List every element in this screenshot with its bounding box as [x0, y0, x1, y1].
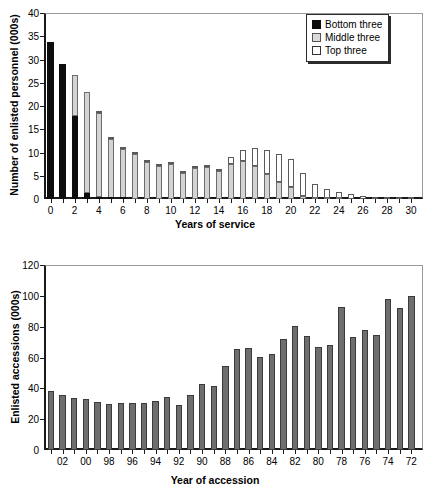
bar-fill — [257, 357, 263, 450]
bar — [84, 13, 90, 199]
legend-swatch-bottom-three-icon — [312, 20, 321, 29]
bar-segment-middle-three — [336, 197, 342, 199]
x-tick-label: 28 — [381, 205, 392, 216]
bar-segment-top-three — [348, 194, 354, 199]
y-tick-label: 25 — [28, 77, 39, 88]
bar-segment-top-three — [408, 197, 414, 199]
x-tick-mark — [121, 450, 122, 454]
bar — [211, 265, 217, 450]
bar-fill — [315, 347, 321, 450]
x-tick-mark — [51, 450, 52, 454]
bar-segment-middle-three — [312, 197, 318, 199]
y-tick-label: 30 — [28, 54, 39, 65]
bar — [222, 265, 228, 450]
x-tick-mark — [135, 199, 136, 203]
bar-segment-middle-three — [204, 167, 210, 199]
bar — [252, 13, 258, 199]
x-tick-mark — [318, 450, 319, 454]
bar — [408, 13, 414, 199]
x-tick-label: 26 — [357, 205, 368, 216]
y-tick-label: 15 — [28, 124, 39, 135]
x-tick-mark — [400, 450, 401, 454]
x-tick-mark — [132, 450, 133, 454]
y-tick-mark — [40, 106, 44, 107]
bar-segment-bottom-three — [84, 193, 90, 200]
y-tick-mark — [40, 36, 44, 37]
y-tick-label: 60 — [28, 352, 39, 363]
x-tick-label: 86 — [243, 456, 254, 467]
y-tick-label: 0 — [33, 445, 39, 456]
bar — [59, 13, 65, 199]
x-tick-mark — [99, 199, 100, 203]
x-tick-label: 20 — [285, 205, 296, 216]
bar-segment-middle-three — [132, 154, 138, 199]
bar-segment-bottom-three — [96, 197, 102, 199]
x-tick-mark — [123, 199, 124, 203]
x-tick-label: 14 — [213, 205, 224, 216]
y-tick-mark — [40, 60, 44, 61]
x-tick-mark — [214, 450, 215, 454]
legend-item-bottom-three: Bottom three — [312, 18, 382, 31]
bar-segment-middle-three — [144, 162, 150, 199]
bar-segment-top-three — [372, 197, 378, 199]
bar-segment-middle-three — [84, 92, 90, 192]
x-tick-mark — [231, 199, 232, 203]
x-tick-mark — [249, 450, 250, 454]
bar — [176, 265, 182, 450]
legend-label-bottom-three: Bottom three — [325, 19, 382, 30]
y-tick-label: 40 — [28, 8, 39, 19]
x-tick-label: 82 — [290, 456, 301, 467]
x-tick-mark — [202, 450, 203, 454]
x-tick-label: 80 — [313, 456, 324, 467]
bar — [187, 265, 193, 450]
x-tick-mark — [225, 450, 226, 454]
bar-fill — [350, 337, 356, 450]
y-tick-mark — [40, 13, 44, 14]
bar-fill — [234, 349, 240, 450]
x-tick-mark — [111, 199, 112, 203]
x-tick-label: 84 — [266, 456, 277, 467]
y-tick-label: 0 — [33, 194, 39, 205]
legend-label-middle-three: Middle three — [325, 32, 380, 43]
bar-segment-top-three — [240, 150, 246, 161]
x-tick-mark — [255, 199, 256, 203]
bar — [132, 13, 138, 199]
bar-segment-top-three — [384, 197, 390, 199]
y-tick-label: 10 — [28, 147, 39, 158]
figure-page: Number of enlisted personnel (000s) 0510… — [0, 0, 430, 498]
bar — [192, 13, 198, 199]
bar-fill — [211, 386, 217, 450]
x-tick-label: 24 — [333, 205, 344, 216]
bar — [72, 13, 78, 199]
x-tick-label: 76 — [359, 456, 370, 467]
x-tick-mark — [272, 450, 273, 454]
x-tick-label: 22 — [309, 205, 320, 216]
bottom-chart-bars — [44, 265, 423, 450]
bar — [199, 265, 205, 450]
y-tick-mark — [40, 296, 44, 297]
bar-segment-middle-three — [264, 174, 270, 199]
bar — [106, 265, 112, 450]
bar — [168, 13, 174, 199]
bar-fill — [245, 348, 251, 450]
x-tick-label: 98 — [104, 456, 115, 467]
x-tick-mark — [363, 199, 364, 203]
bar-fill — [94, 402, 100, 450]
bottom-chart-y-axis-label: Enlisted accessions (000s) — [8, 264, 20, 449]
x-tick-label: 16 — [237, 205, 248, 216]
bar — [373, 265, 379, 450]
bar-segment-middle-three — [252, 166, 258, 199]
bar — [94, 265, 100, 450]
bar-fill — [408, 296, 414, 450]
x-tick-mark — [411, 199, 412, 203]
x-tick-mark — [190, 450, 191, 454]
y-tick-mark — [40, 83, 44, 84]
bar — [327, 265, 333, 450]
bar — [47, 13, 53, 199]
bar — [164, 265, 170, 450]
bar-fill — [129, 403, 135, 450]
x-tick-mark — [303, 199, 304, 203]
bar-segment-middle-three — [288, 187, 294, 199]
bar — [264, 13, 270, 199]
bar-fill — [187, 395, 193, 450]
